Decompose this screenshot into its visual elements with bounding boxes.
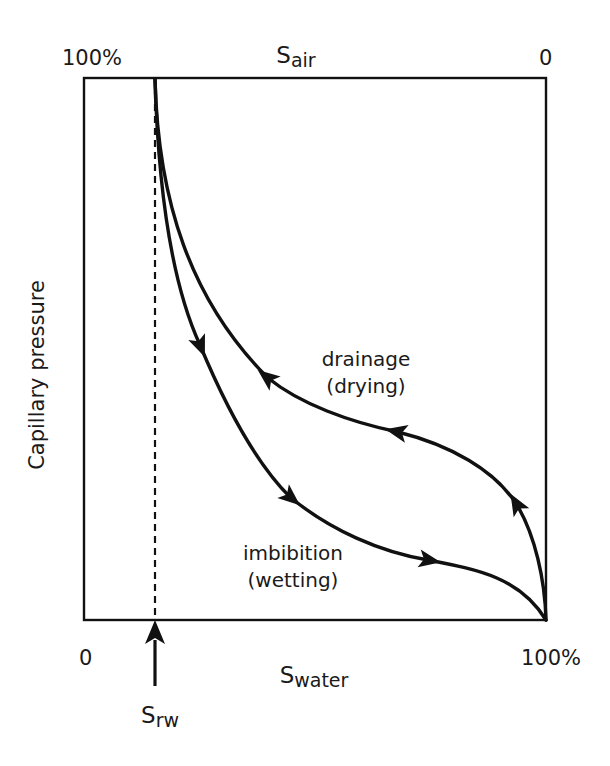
- top-axis-title: Sair: [256, 44, 336, 67]
- drainage-label-line2: (drying): [306, 373, 426, 400]
- imbibition-label-line2: (wetting): [228, 567, 358, 594]
- srw-symbol: S: [141, 702, 156, 728]
- drainage-arrow-icon-2: [383, 420, 408, 442]
- drainage-label: drainage (drying): [306, 346, 426, 400]
- bottom-axis-subscript: water: [294, 669, 348, 691]
- bottom-axis-symbol: S: [280, 662, 295, 688]
- top-axis-left-value: 100%: [62, 48, 122, 69]
- drainage-label-line1: drainage: [306, 346, 426, 373]
- top-axis-right-value: 0: [539, 48, 552, 69]
- top-axis-symbol: S: [276, 42, 291, 68]
- top-axis-subscript: air: [291, 49, 316, 71]
- imbibition-label: imbibition (wetting): [228, 540, 358, 594]
- bottom-axis-title: Swater: [254, 664, 374, 687]
- imbibition-label-line1: imbibition: [228, 540, 358, 567]
- bottom-axis-left-value: 0: [79, 648, 92, 669]
- srw-subscript: rw: [156, 709, 179, 731]
- bottom-axis-right-value: 100%: [521, 648, 581, 669]
- y-axis-label: Capillary pressure: [25, 280, 49, 470]
- residual-saturation-label: Srw: [130, 704, 190, 727]
- imbibition-arrow-icon-1: [188, 333, 213, 360]
